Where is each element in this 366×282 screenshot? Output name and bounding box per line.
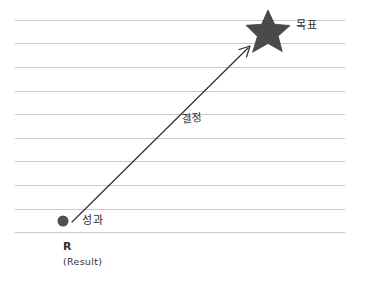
goal-label: 목표 — [296, 20, 317, 32]
goal-star-icon — [246, 10, 290, 52]
result-node-dot — [58, 216, 69, 227]
result-abbreviation-label: R — [63, 241, 72, 253]
decision-arrow-shaft — [72, 48, 248, 222]
result-expansion-label: (Result) — [63, 257, 102, 267]
diagram-artwork — [0, 0, 366, 282]
diagram-canvas: 목표 결정 성과 R (Result) — [0, 0, 366, 282]
result-label: 성과 — [82, 215, 103, 227]
decision-label: 결정 — [181, 112, 203, 126]
